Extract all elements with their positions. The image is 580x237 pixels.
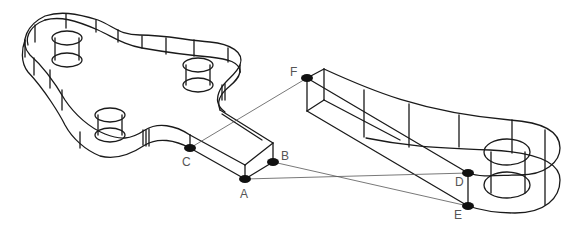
points [184,74,474,210]
point-b [267,158,279,166]
construction-lines [190,78,468,206]
label-d: D [455,176,464,188]
line-c-f [190,78,307,148]
label-f: F [290,66,297,78]
line-b-e [273,162,468,206]
label-e: E [454,209,462,221]
line-a-d [245,173,468,179]
left-plate [22,13,273,179]
label-b: B [281,150,289,162]
point-c [184,144,196,152]
point-e [462,202,474,210]
label-a: A [240,188,248,200]
label-c: C [182,156,191,168]
right-link-arm [307,69,560,213]
point-a [239,175,251,183]
point-f [301,74,313,82]
isometric-assembly-diagram [0,0,580,237]
